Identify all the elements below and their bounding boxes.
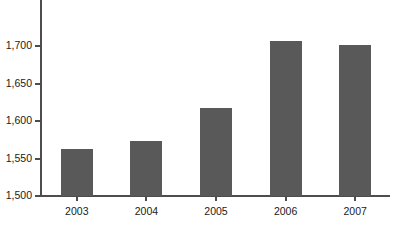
bar-2007 xyxy=(339,45,371,197)
plot-area xyxy=(42,0,390,196)
y-axis-tick xyxy=(35,83,41,85)
x-axis-tick xyxy=(215,196,217,201)
y-axis-tick xyxy=(35,158,41,160)
x-axis-label-2003: 2003 xyxy=(47,205,107,217)
bar-2005 xyxy=(200,108,232,197)
y-axis-tick-label: 1,700 xyxy=(0,40,32,51)
y-axis-tick xyxy=(35,195,41,197)
bar-2006 xyxy=(270,41,302,196)
y-axis-tick-label: 1,550 xyxy=(0,153,32,164)
x-axis-label-2005: 2005 xyxy=(186,205,246,217)
y-axis-tick-label: 1,500 xyxy=(0,190,32,201)
bar-2003 xyxy=(61,149,93,196)
bar-chart: 1,5001,5501,6001,6501,700 20032004200520… xyxy=(0,0,398,229)
x-axis-tick xyxy=(76,196,78,201)
x-axis-label-2006: 2006 xyxy=(256,205,316,217)
y-axis-tick-label: 1,650 xyxy=(0,78,32,89)
x-axis-label-2004: 2004 xyxy=(116,205,176,217)
y-axis-tick xyxy=(35,45,41,47)
y-axis-tick xyxy=(35,120,41,122)
x-axis-tick xyxy=(285,196,287,201)
x-axis-label-2007: 2007 xyxy=(325,205,385,217)
x-axis-tick xyxy=(354,196,356,201)
y-axis-tick-label: 1,600 xyxy=(0,115,32,126)
x-axis-tick xyxy=(145,196,147,201)
bar-2004 xyxy=(130,141,162,197)
